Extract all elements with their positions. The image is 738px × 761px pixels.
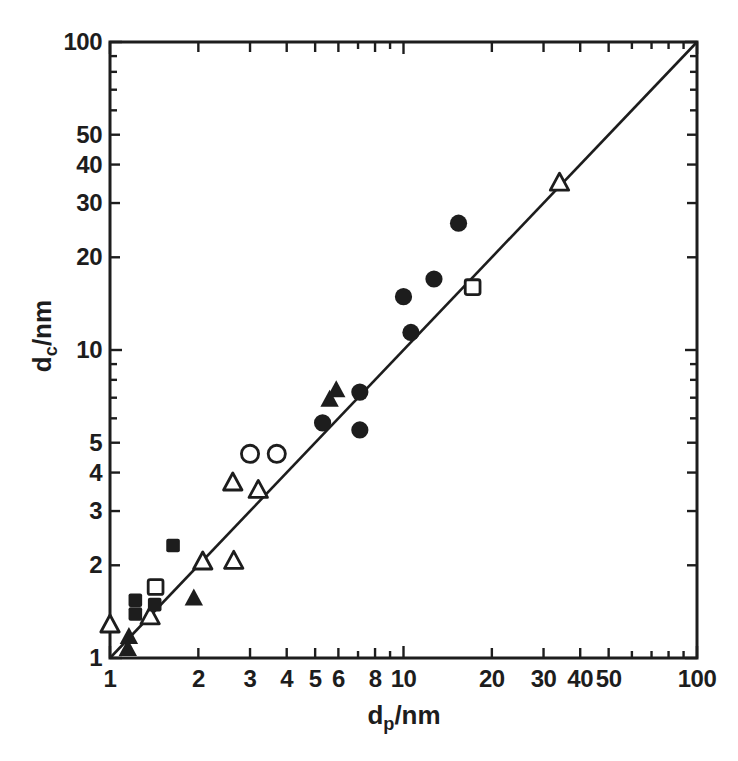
point-filled-circle [395,288,412,305]
x-tick-label: 2 [192,665,205,692]
point-filled-circle [450,215,467,232]
point-filled-circle [351,383,368,400]
point-filled-circle [425,270,442,287]
point-filled-triangle [185,589,203,606]
point-open-square [465,280,480,295]
x-axis-title: dp/nm [367,700,440,731]
y-axis-title: dc/nm [27,300,58,372]
x-tick-label: 20 [479,665,505,692]
y-tick-label: 40 [76,151,102,178]
point-open-triangle [249,480,267,497]
y-tick-labels: 123451020304050100 [63,28,103,671]
x-tick-label: 50 [596,665,622,692]
y-tick-label: 4 [89,459,103,486]
point-filled-square [129,593,143,607]
scatter-plot-figure: 12345681020304050100123451020304050100 d… [0,0,738,761]
y-axis-title-subscript: c [41,346,61,356]
x-tick-label: 4 [280,665,294,692]
y-tick-label: 3 [89,497,102,524]
x-axis-title-subscript: p [383,714,394,734]
y-tick-label: 30 [76,189,102,216]
x-tick-label: 5 [309,665,322,692]
y-tick-label: 10 [76,336,102,363]
x-tick-labels: 12345681020304050100 [104,665,717,692]
point-open-triangle [225,551,243,568]
point-open-circle [268,445,285,462]
point-filled-circle [314,414,331,431]
point-open-triangle [550,173,568,190]
x-tick-label: 40 [567,665,593,692]
y-axis-title-base: d [27,356,57,372]
point-filled-square [148,598,162,612]
x-axis-title-unit: /nm [394,700,440,730]
x-axis-title-base: d [367,700,383,730]
point-open-circle [241,445,258,462]
x-tick-label: 3 [244,665,257,692]
x-tick-label: 8 [369,665,382,692]
y-tick-label: 50 [76,121,102,148]
y-tick-label: 100 [63,28,102,55]
point-open-triangle [224,473,242,490]
chart-svg: 12345681020304050100123451020304050100 [0,0,738,761]
x-tick-label: 6 [332,665,345,692]
y-tick-label: 20 [76,243,102,270]
series-open-square [148,280,480,595]
y-axis-title-unit: /nm [27,300,57,346]
series-open-circle [241,445,285,462]
y-tick-label: 1 [89,644,102,671]
y-tick-label: 5 [89,429,102,456]
point-filled-square [166,539,180,553]
x-tick-label: 100 [678,665,717,692]
x-tick-label: 10 [391,665,417,692]
point-filled-square [129,607,143,621]
point-filled-circle [351,421,368,438]
y-tick-label: 2 [89,551,102,578]
point-open-square [148,580,163,595]
point-filled-circle [402,324,419,341]
x-tick-label: 1 [104,665,117,692]
x-tick-label: 30 [531,665,557,692]
point-open-triangle [101,615,119,632]
point-filled-triangle [327,380,345,397]
